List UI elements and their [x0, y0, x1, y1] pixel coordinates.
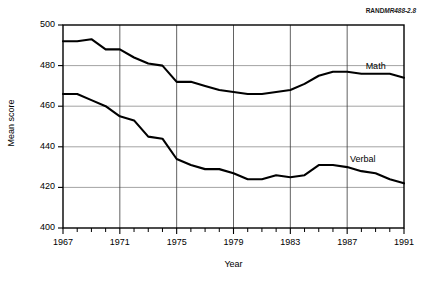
x-axis-tick-label: 1987: [327, 237, 367, 247]
y-axis-tick-label: 400: [23, 222, 55, 232]
y-axis-tick-label: 500: [23, 19, 55, 29]
y-axis-ticks: [58, 25, 63, 228]
rand-document-id: RANDMR488-2.8: [366, 7, 416, 14]
y-axis-tick-label: 420: [23, 181, 55, 191]
series-label-verbal: Verbal: [350, 154, 376, 164]
x-axis-tick-label: 1979: [214, 237, 254, 247]
x-axis-tick-label: 1975: [157, 237, 197, 247]
x-axis-tick-label: 1967: [43, 237, 83, 247]
series-label-math: Math: [366, 61, 386, 71]
x-axis-tick-label: 1991: [384, 237, 424, 247]
x-axis-tick-label: 1971: [100, 237, 140, 247]
chart-figure: RANDMR488-2.8 Mean score Year 4004204404…: [0, 0, 425, 283]
x-axis-ticks: [63, 228, 404, 234]
vertical-gridlines: [120, 25, 347, 228]
y-axis-title: Mean score: [6, 88, 16, 158]
x-axis-tick-label: 1983: [270, 237, 310, 247]
y-axis-tick-label: 440: [23, 141, 55, 151]
x-axis-title: Year: [63, 259, 404, 269]
y-axis-tick-label: 480: [23, 60, 55, 70]
y-axis-tick-label: 460: [23, 100, 55, 110]
rand-document-id-suffix: MR488-2.8: [384, 7, 416, 14]
rand-document-id-prefix: RAND: [366, 7, 385, 14]
